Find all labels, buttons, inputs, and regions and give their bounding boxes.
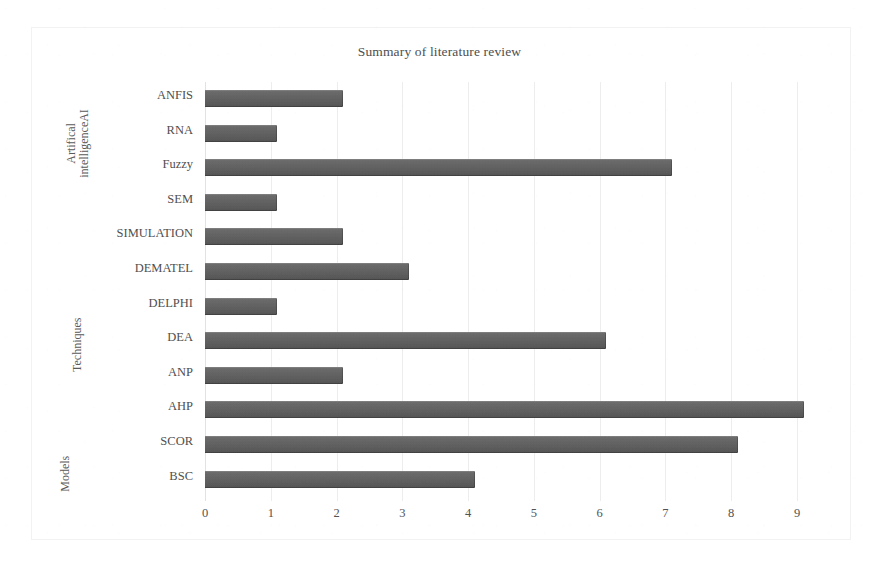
bar-scor[interactable] bbox=[205, 436, 738, 453]
category-label-anfis: ANFIS bbox=[157, 88, 193, 103]
x-tick-label-6: 6 bbox=[597, 506, 603, 521]
bar-ahp[interactable] bbox=[205, 401, 804, 418]
bar-bsc[interactable] bbox=[205, 471, 475, 488]
bar-row: RNA bbox=[205, 117, 797, 152]
bar-row: DEMATEL bbox=[205, 255, 797, 290]
bar-simulation[interactable] bbox=[205, 228, 343, 245]
category-label-fuzzy: Fuzzy bbox=[162, 157, 193, 172]
bar-row: DEA bbox=[205, 324, 797, 359]
bar-row: ANFIS bbox=[205, 82, 797, 117]
group-label-artificial-intelligence: Artifical intelligenceAI bbox=[65, 63, 92, 223]
bar-row: DELPHI bbox=[205, 290, 797, 325]
x-tick-label-3: 3 bbox=[399, 506, 405, 521]
bar-anfis[interactable] bbox=[205, 90, 343, 107]
x-tick-label-9: 9 bbox=[794, 506, 800, 521]
bar-dea[interactable] bbox=[205, 332, 606, 349]
bar-sem[interactable] bbox=[205, 194, 277, 211]
category-label-scor: SCOR bbox=[160, 434, 193, 449]
category-label-bsc: BSC bbox=[169, 469, 193, 484]
bar-row: SEM bbox=[205, 186, 797, 221]
category-label-rna: RNA bbox=[167, 123, 193, 138]
category-label-ahp: AHP bbox=[168, 399, 193, 414]
x-axis: 0123456789 bbox=[205, 506, 797, 528]
group-label-techniques: Techniques bbox=[71, 255, 84, 435]
category-label-sem: SEM bbox=[167, 192, 193, 207]
x-tick-label-4: 4 bbox=[465, 506, 471, 521]
plot-area: ANFISRNAFuzzySEMSIMULATIONDEMATELDELPHID… bbox=[205, 82, 797, 497]
bar-row: AHP bbox=[205, 393, 797, 428]
x-tick-label-5: 5 bbox=[531, 506, 537, 521]
bar-rna[interactable] bbox=[205, 125, 277, 142]
category-label-dea: DEA bbox=[167, 330, 193, 345]
group-label-models: Models bbox=[59, 419, 72, 529]
bar-row: SIMULATION bbox=[205, 220, 797, 255]
bar-row: BSC bbox=[205, 463, 797, 498]
x-tick-label-7: 7 bbox=[662, 506, 668, 521]
bar-anp[interactable] bbox=[205, 367, 343, 384]
bar-fuzzy[interactable] bbox=[205, 159, 672, 176]
category-label-dematel: DEMATEL bbox=[135, 261, 193, 276]
gridline-9 bbox=[797, 82, 798, 501]
x-tick-label-0: 0 bbox=[202, 506, 208, 521]
x-tick-label-2: 2 bbox=[333, 506, 339, 521]
bar-row: ANP bbox=[205, 359, 797, 394]
bar-dematel[interactable] bbox=[205, 263, 409, 280]
category-label-anp: ANP bbox=[168, 365, 193, 380]
bar-row: Fuzzy bbox=[205, 151, 797, 186]
chart-title: Summary of literature review bbox=[0, 44, 879, 60]
x-tick-label-8: 8 bbox=[728, 506, 734, 521]
category-label-simulation: SIMULATION bbox=[117, 226, 193, 241]
bar-delphi[interactable] bbox=[205, 298, 277, 315]
bar-row: SCOR bbox=[205, 428, 797, 463]
category-label-delphi: DELPHI bbox=[149, 296, 193, 311]
x-tick-label-1: 1 bbox=[268, 506, 274, 521]
